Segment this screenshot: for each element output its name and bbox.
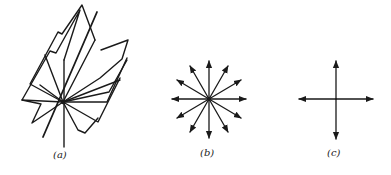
figure-c-label: (c) (327, 147, 340, 158)
figure-a-label: (a) (53, 149, 67, 160)
figure-b-arrows (172, 61, 246, 138)
figure-b-label: (b) (200, 147, 214, 158)
figure-c-arrows (299, 61, 373, 139)
figure-a-planes (22, 5, 128, 147)
